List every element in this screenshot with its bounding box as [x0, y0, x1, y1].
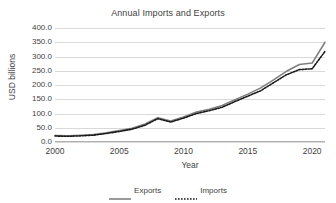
chart-legend: Exports Imports — [0, 186, 336, 195]
legend-entry-imports: Imports — [175, 186, 227, 195]
y-axis-tick-label: 400.0 — [16, 24, 52, 32]
y-axis-tick-label: 100.0 — [16, 110, 52, 118]
chart-title: Annual Imports and Exports — [0, 8, 336, 18]
x-axis-title: Year — [55, 160, 325, 170]
chart-figure: Annual Imports and Exports USD billions … — [0, 0, 336, 203]
x-axis-tick-label: 2010 — [167, 146, 201, 156]
legend-label-imports: Imports — [200, 186, 227, 195]
line-series-imports — [55, 51, 325, 136]
y-axis-tick-labels: 400.0350.0300.0250.0200.0150.0100.050.00… — [12, 24, 52, 146]
y-axis-tick-label: 200.0 — [16, 81, 52, 89]
x-axis-tick-label: 2015 — [231, 146, 265, 156]
plot-area — [55, 28, 325, 142]
legend-label-exports: Exports — [134, 186, 161, 195]
legend-entry-exports: Exports — [109, 186, 161, 195]
y-axis-tick-label: 50.0 — [16, 124, 52, 132]
x-axis-tick-label: 2000 — [38, 146, 72, 156]
series-lines — [55, 28, 325, 142]
y-axis-tick-label: 300.0 — [16, 53, 52, 61]
y-axis-tick-label: 350.0 — [16, 38, 52, 46]
legend-swatch-exports-icon — [109, 188, 131, 194]
plot-wrapper: USD billions 400.0350.0300.0250.0200.015… — [0, 24, 336, 154]
x-axis-tick-labels: 20002005201020152020 — [55, 146, 325, 160]
line-series-exports — [55, 42, 325, 135]
legend-swatch-imports-icon — [175, 188, 197, 194]
y-axis-tick-label: 250.0 — [16, 67, 52, 75]
x-axis-tick-label: 2020 — [295, 146, 329, 156]
y-axis-tick-label: 0.0 — [16, 138, 52, 146]
y-axis-tick-label: 150.0 — [16, 95, 52, 103]
gridline — [55, 142, 325, 143]
x-axis-tick-label: 2005 — [102, 146, 136, 156]
